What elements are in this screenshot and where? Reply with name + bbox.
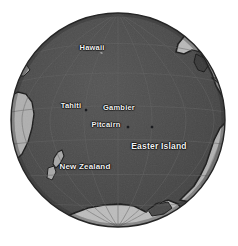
globe-map [0,0,238,246]
globe-figure: HawaiiTahitiGambierPitcairnEaster Island… [0,0,238,246]
